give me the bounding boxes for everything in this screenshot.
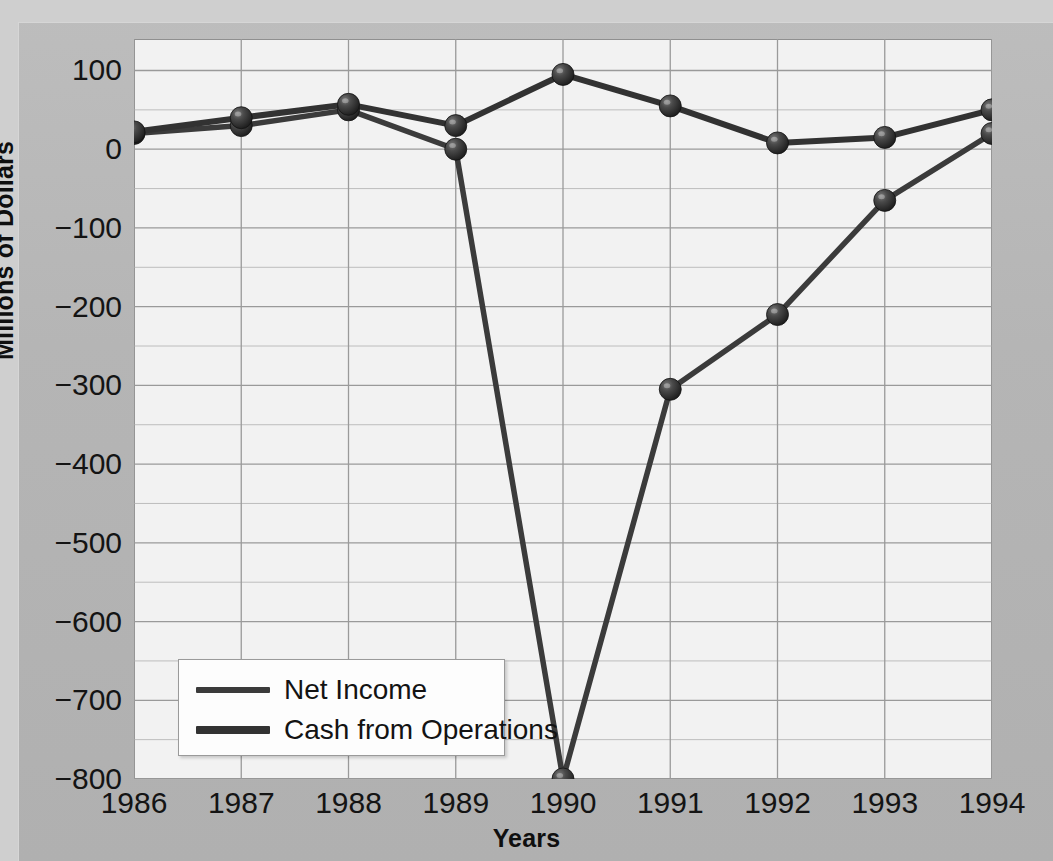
x-tick-label: 1987 [208, 786, 275, 820]
x-tick-label: 1991 [637, 786, 704, 820]
y-tick-label: 100 [4, 53, 122, 87]
y-tick-label: −200 [4, 290, 122, 324]
y-tick-label: 0 [4, 132, 122, 166]
data-point-marker [338, 93, 360, 115]
y-tick-label: −700 [4, 683, 122, 717]
legend-label-cash-from-operations: Cash from Operations [284, 716, 558, 744]
chart-figure: Millions of Dollars Years 1000−100−200−3… [0, 0, 1053, 861]
data-point-marker [659, 378, 681, 400]
data-point-marker [874, 126, 896, 148]
x-tick-label: 1992 [744, 786, 811, 820]
x-tick-label: 1989 [422, 786, 489, 820]
legend-item-net-income: Net Income [179, 670, 504, 710]
legend-item-cash-from-operations: Cash from Operations [179, 710, 504, 750]
y-tick-label: −600 [4, 605, 122, 639]
data-point-marker [874, 189, 896, 211]
data-point-marker [767, 132, 789, 154]
y-tick-label: −500 [4, 526, 122, 560]
x-tick-label: 1988 [315, 786, 382, 820]
data-point-marker [445, 115, 467, 137]
y-tick-label: −100 [4, 211, 122, 245]
chart-legend: Net Income Cash from Operations [178, 659, 505, 756]
data-point-marker [230, 107, 252, 129]
data-point-marker [767, 304, 789, 326]
x-tick-label: 1993 [851, 786, 918, 820]
legend-label-net-income: Net Income [284, 676, 427, 704]
x-tick-label: 1994 [959, 786, 1026, 820]
data-point-marker [659, 95, 681, 117]
x-tick-label: 1990 [530, 786, 597, 820]
data-point-marker [445, 138, 467, 160]
y-tick-label: −300 [4, 368, 122, 402]
data-point-marker [981, 99, 992, 121]
legend-swatch-cash-from-operations [196, 726, 270, 734]
y-tick-label: −400 [4, 447, 122, 481]
x-tick-label: 1986 [101, 786, 168, 820]
data-point-marker [552, 63, 574, 85]
legend-swatch-net-income [196, 687, 270, 693]
data-point-marker [552, 768, 574, 779]
